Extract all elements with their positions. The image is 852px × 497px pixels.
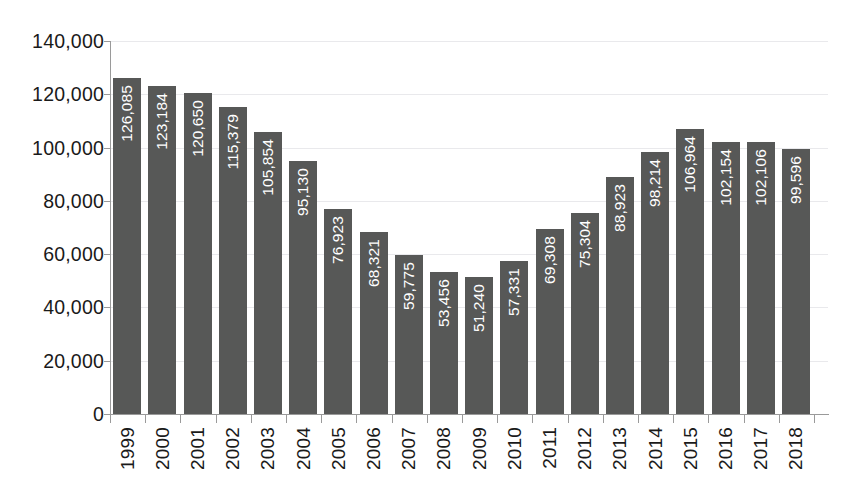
bar-value-label: 69,308 (536, 236, 564, 284)
bar-slot: 99,596 (779, 41, 814, 414)
x-axis-tick-label: 2001 (180, 427, 215, 474)
x-axis-tick-label: 2003 (251, 427, 286, 474)
bar-slot: 126,085 (110, 41, 145, 414)
bar-slot: 68,321 (356, 41, 391, 414)
y-axis-line (110, 41, 111, 415)
bar[interactable]: 115,379 (219, 107, 247, 414)
bar-value-label: 75,304 (571, 220, 599, 268)
bar-slot: 57,331 (497, 41, 532, 414)
x-axis-tick-mark (145, 415, 146, 423)
bar[interactable]: 76,923 (324, 209, 352, 414)
y-axis-tick-label: 140,000 (32, 30, 104, 53)
bar[interactable]: 69,308 (536, 229, 564, 414)
x-axis-tick-label: 2011 (532, 427, 567, 473)
x-axis-tick-mark (673, 415, 674, 423)
bar-value-label: 99,596 (782, 156, 810, 204)
x-axis-tick-mark (462, 415, 463, 423)
bar-slot: 76,923 (321, 41, 356, 414)
bar[interactable]: 126,085 (113, 78, 141, 414)
x-axis-tick-label: 2007 (392, 427, 427, 474)
x-axis-tick-label: 2006 (356, 427, 391, 474)
bar[interactable]: 57,331 (500, 261, 528, 414)
bar-slot: 102,106 (744, 41, 779, 414)
bar-value-label: 95,130 (289, 168, 317, 216)
x-axis-tick-mark (286, 415, 287, 423)
x-axis-tick-mark (427, 415, 428, 423)
bar-slot: 102,154 (708, 41, 743, 414)
bar[interactable]: 99,596 (782, 149, 810, 414)
x-axis-tick-mark (392, 415, 393, 423)
x-axis-tick-label: 2016 (708, 427, 743, 474)
x-axis-tick-mark (568, 415, 569, 423)
x-axis-tick-label: 2002 (216, 427, 251, 474)
x-axis-tick-label: 2009 (462, 427, 497, 474)
y-axis-tick-label: 20,000 (43, 349, 104, 372)
bar-slot: 95,130 (286, 41, 321, 414)
bar-slot: 88,923 (603, 41, 638, 414)
x-axis-tick-label: 2005 (321, 427, 356, 474)
x-axis-tick-label: 2017 (744, 427, 779, 474)
bar-value-label: 57,331 (500, 268, 528, 316)
x-axis-tick-mark (216, 415, 217, 423)
bar[interactable]: 102,154 (712, 142, 740, 414)
bar[interactable]: 120,650 (184, 93, 212, 414)
x-axis-tick-mark (744, 415, 745, 423)
bar-value-label: 126,085 (113, 85, 141, 142)
x-axis-tick-mark (356, 415, 357, 423)
bar[interactable]: 68,321 (360, 232, 388, 414)
y-axis-tick-label: 120,000 (32, 83, 104, 106)
bar[interactable]: 88,923 (606, 177, 634, 414)
x-axis-tick-label: 2010 (497, 427, 532, 474)
bar-value-label: 98,214 (641, 159, 669, 207)
x-axis-tick-label: 2012 (568, 427, 603, 474)
x-axis-tick-mark (638, 415, 639, 423)
bar[interactable]: 123,184 (148, 86, 176, 414)
x-axis-tick-label: 2013 (603, 427, 638, 474)
bar-slot: 53,456 (427, 41, 462, 414)
bar-slot: 106,964 (673, 41, 708, 414)
bar-value-label: 102,154 (712, 149, 740, 206)
bar-slot: 115,379 (216, 41, 251, 414)
bar-value-label: 88,923 (606, 184, 634, 232)
bar-slot: 69,308 (532, 41, 567, 414)
bar[interactable]: 102,106 (747, 142, 775, 414)
x-axis-line (110, 414, 829, 415)
bar-value-label: 120,650 (184, 100, 212, 157)
x-axis-tick-label: 1999 (110, 427, 145, 474)
bar-value-label: 102,106 (747, 149, 775, 206)
x-axis-tick-mark (708, 415, 709, 423)
x-axis-tick-label: 2008 (427, 427, 462, 474)
y-axis-tick-label: 40,000 (43, 296, 104, 319)
bar[interactable]: 105,854 (254, 132, 282, 414)
bar-value-label: 105,854 (254, 139, 282, 196)
bar[interactable]: 95,130 (289, 161, 317, 414)
bar-slot: 123,184 (145, 41, 180, 414)
x-axis-tick-mark (779, 415, 780, 423)
bar[interactable]: 98,214 (641, 152, 669, 414)
y-axis-tick-label: 60,000 (43, 243, 104, 266)
x-axis-tick-mark (603, 415, 604, 423)
y-axis-tick-label: 100,000 (32, 136, 104, 159)
x-axis-tick-mark (532, 415, 533, 423)
bar[interactable]: 59,775 (395, 255, 423, 414)
x-axis-tick-mark (180, 415, 181, 423)
bar-slot: 51,240 (462, 41, 497, 414)
bar-chart: 020,00040,00060,00080,000100,000120,0001… (0, 0, 852, 497)
y-axis-tick-label: 80,000 (43, 189, 104, 212)
x-axis-tick-mark (321, 415, 322, 423)
bar[interactable]: 75,304 (571, 213, 599, 414)
bar[interactable]: 106,964 (676, 129, 704, 414)
plot-area: 126,085123,184120,650115,379105,85495,13… (110, 41, 828, 414)
bar-value-label: 76,923 (324, 216, 352, 264)
x-axis-tick-mark (110, 415, 111, 423)
bar[interactable]: 51,240 (465, 277, 493, 414)
x-axis-tick-mark (251, 415, 252, 423)
bar-slot: 120,650 (180, 41, 215, 414)
y-axis: 020,00040,00060,00080,000100,000120,0001… (0, 0, 104, 497)
bar-value-label: 59,775 (395, 262, 423, 310)
bar-value-label: 51,240 (465, 284, 493, 332)
x-axis-tick-mark (497, 415, 498, 423)
x-axis-tick-mark (814, 415, 815, 423)
x-axis-tick-label: 2014 (638, 427, 673, 474)
bar[interactable]: 53,456 (430, 272, 458, 414)
